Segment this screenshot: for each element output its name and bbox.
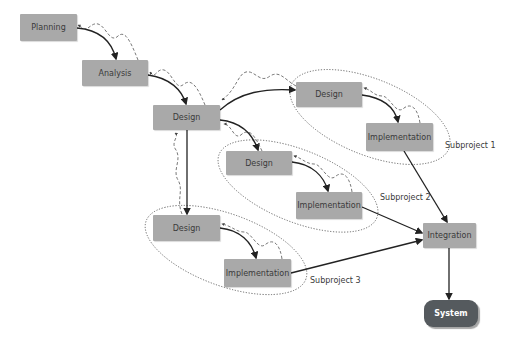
design-sp2-node: Design [226,151,292,175]
integration-label: Integration [427,231,471,240]
implementation-sp2-label: Implementation [297,201,361,210]
implementation-sp3-node: Implementation [224,259,291,287]
planning-label: Planning [31,23,65,32]
arrow-planning-analysis [77,28,116,59]
implementation-sp1-label: Implementation [368,133,432,142]
arrow-design-design-sp1 [220,90,295,110]
subproject-1-boundary [277,50,463,184]
arrow-design-impl-sp1 [362,95,398,122]
feedback-impl-sp3-design [222,224,282,259]
feedback-design-analysis [150,70,205,105]
subproject-3-boundary [134,187,318,313]
design-sp1-node: Design [296,82,362,107]
arrow-impl-sp3-integration [291,240,422,273]
design-sp1-label: Design [315,90,343,99]
feedback-design-sp3-design [174,133,182,214]
subproject-3-label: Subproject 3 [310,276,361,285]
system-node: System [424,300,478,327]
planning-node: Planning [20,14,77,41]
feedback-design-sp1-design [222,72,296,100]
arrow-impl-sp2-integration [362,207,422,233]
subproject-1-label: Subproject 1 [445,141,496,150]
design-sp3-node: Design [153,215,220,241]
design-main-label: Design [173,113,201,122]
design-sp3-label: Design [173,224,201,233]
feedback-impl-sp2-design [294,156,352,192]
implementation-sp2-node: Implementation [296,192,362,219]
arrow-impl-sp1-integration [404,151,447,222]
integration-node: Integration [423,223,476,248]
implementation-sp1-node: Implementation [366,123,433,151]
analysis-node: Analysis [82,60,148,86]
subproject-2-label: Subproject 2 [380,193,431,202]
arrow-analysis-design [148,75,186,104]
analysis-label: Analysis [99,69,132,78]
arrow-design-impl-sp2 [292,162,328,191]
implementation-sp3-label: Implementation [226,269,290,278]
feedback-impl-sp1-design [364,88,420,123]
design-main-node: Design [153,105,220,130]
design-sp2-label: Design [245,159,273,168]
arrow-design-impl-sp3 [220,228,256,258]
system-label: System [434,309,467,318]
